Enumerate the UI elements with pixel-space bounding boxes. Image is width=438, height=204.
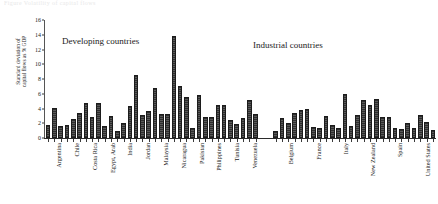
bar xyxy=(128,106,133,138)
x-tick-mark xyxy=(136,139,137,142)
x-tick-mark xyxy=(376,139,377,142)
x-tick-label: Italy xyxy=(343,143,350,154)
x-tick-mark xyxy=(433,139,434,142)
x-tick-mark xyxy=(332,139,333,142)
x-tick-mark xyxy=(92,139,93,142)
x-tick-mark xyxy=(288,139,289,142)
bar xyxy=(71,119,76,138)
x-tick-mark xyxy=(161,139,162,142)
bar xyxy=(159,114,164,138)
x-tick-mark xyxy=(186,139,187,142)
bar xyxy=(203,117,208,138)
x-tick-mark xyxy=(414,139,415,142)
y-tick-label: 0 xyxy=(38,135,41,141)
x-tick-mark xyxy=(249,139,250,142)
bar xyxy=(184,97,189,138)
x-tick-mark xyxy=(276,139,277,142)
x-tick-mark xyxy=(313,139,314,142)
x-tick-mark xyxy=(408,139,409,142)
x-tick-mark xyxy=(73,139,74,142)
x-tick-mark xyxy=(224,139,225,142)
x-tick-label: Chile xyxy=(74,143,81,156)
x-tick-label: New Zealand xyxy=(370,143,377,176)
x-tick-mark xyxy=(174,139,175,142)
bar xyxy=(343,94,348,138)
x-tick-label: Argentina xyxy=(56,143,63,168)
x-tick-mark xyxy=(326,139,327,142)
y-axis-ticks: 0246810121416 xyxy=(22,20,44,138)
x-tick-mark xyxy=(243,139,244,142)
x-tick-mark xyxy=(301,139,302,142)
x-tick-mark xyxy=(105,139,106,142)
bar xyxy=(317,128,322,138)
bar xyxy=(178,86,183,138)
bar xyxy=(109,116,114,138)
x-tick-mark xyxy=(130,139,131,142)
bar xyxy=(361,100,366,138)
bar xyxy=(209,117,214,138)
x-tick-label: Pakistan xyxy=(199,143,206,164)
x-axis-labels: ArgentinaChileCosta RicaEgypt, ArabIndia… xyxy=(45,143,436,204)
x-tick-label: India xyxy=(127,143,134,156)
bar xyxy=(134,75,139,138)
x-tick-mark xyxy=(237,139,238,142)
bar xyxy=(431,130,436,138)
bar xyxy=(77,113,82,138)
bar xyxy=(197,95,202,139)
x-tick-mark xyxy=(61,139,62,142)
x-tick-mark xyxy=(383,139,384,142)
y-tick-label: 2 xyxy=(38,120,41,126)
x-tick-mark xyxy=(67,139,68,142)
y-tick-label: 6 xyxy=(38,91,41,97)
bar xyxy=(311,127,316,138)
bar xyxy=(305,109,310,138)
bar xyxy=(46,125,51,138)
bar xyxy=(216,105,221,138)
bar xyxy=(387,117,392,138)
bar xyxy=(355,115,360,138)
x-tick-mark xyxy=(401,139,402,142)
bar xyxy=(273,131,278,138)
x-tick-label: Egypt, Arab xyxy=(110,143,117,173)
x-tick-mark xyxy=(199,139,200,142)
x-tick-mark xyxy=(212,139,213,142)
x-tick-mark xyxy=(295,139,296,142)
bar xyxy=(374,99,379,138)
bar xyxy=(190,128,195,138)
cut-off-caption: Figure Volatility of capital flows xyxy=(4,0,234,9)
x-tick-label: Tunisia xyxy=(234,143,241,161)
x-tick-mark xyxy=(389,139,390,142)
bar xyxy=(115,131,120,138)
bar xyxy=(280,118,285,138)
x-tick-mark xyxy=(256,139,257,142)
x-tick-mark xyxy=(111,139,112,142)
bar xyxy=(96,103,101,138)
x-tick-mark xyxy=(155,139,156,142)
x-tick-mark xyxy=(193,139,194,142)
y-tick-label: 10 xyxy=(35,61,41,67)
x-tick-label: Nicaragua xyxy=(181,143,188,168)
x-tick-label: Philippines xyxy=(216,143,223,171)
bar xyxy=(349,126,354,138)
bar xyxy=(146,111,151,138)
y-tick-label: 14 xyxy=(35,32,41,38)
x-tick-mark xyxy=(80,139,81,142)
x-tick-mark xyxy=(86,139,87,142)
bar xyxy=(292,113,297,138)
x-tick-mark xyxy=(370,139,371,142)
bar xyxy=(412,128,417,138)
y-tick-label: 12 xyxy=(35,47,41,53)
y-tick-label: 16 xyxy=(35,17,41,23)
x-tick-mark xyxy=(98,139,99,142)
bar xyxy=(405,123,410,138)
x-tick-mark xyxy=(339,139,340,142)
x-tick-mark xyxy=(420,139,421,142)
x-tick-mark xyxy=(142,139,143,142)
bar xyxy=(153,88,158,138)
x-tick-mark xyxy=(320,139,321,142)
bar xyxy=(324,116,329,138)
bar xyxy=(253,114,258,138)
bar xyxy=(336,128,341,138)
x-tick-mark xyxy=(282,139,283,142)
x-tick-mark xyxy=(117,139,118,142)
